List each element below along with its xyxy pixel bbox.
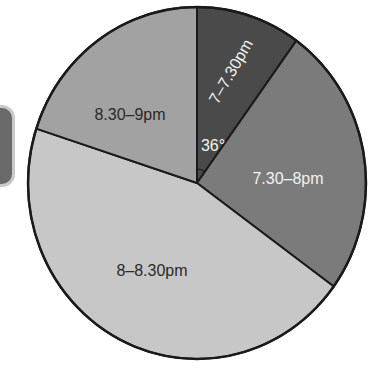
slice-label: 7.30–8pm <box>252 170 323 187</box>
slice-label: 8.30–9pm <box>94 106 165 123</box>
slice-label: 8–8.30pm <box>116 262 187 279</box>
pie-chart: 7–7.30pm7.30–8pm8–8.30pm8.30–9pm 36° <box>0 0 382 378</box>
angle-marker-label: 36° <box>201 137 225 154</box>
